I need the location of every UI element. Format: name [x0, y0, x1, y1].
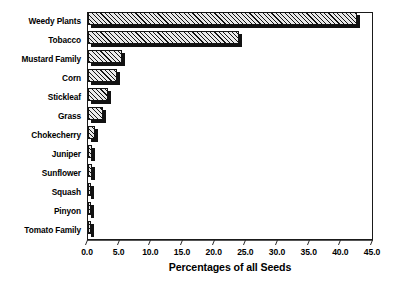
x-axis-tick — [275, 240, 278, 245]
x-axis-tick — [117, 240, 120, 245]
bar — [88, 31, 239, 44]
bar — [88, 164, 92, 177]
x-axis-tick — [85, 240, 88, 245]
x-axis-tick-label: 10.0 — [142, 247, 158, 257]
bar — [88, 145, 92, 158]
bar-row — [88, 183, 373, 202]
x-axis-tick — [180, 240, 183, 245]
category-label: Tobacco — [0, 31, 84, 50]
x-axis-title: Percentages of all Seeds — [87, 261, 373, 273]
category-label: Stickleaf — [0, 88, 84, 107]
bar — [88, 50, 122, 63]
x-axis-tick-label: 45.0 — [364, 247, 380, 257]
bar — [88, 88, 108, 101]
bar-shadow — [91, 186, 94, 199]
x-axis-tick-label: 0.0 — [81, 247, 93, 257]
category-label: Grass — [0, 107, 84, 126]
bar — [88, 221, 91, 234]
x-axis-tick-label: 25.0 — [237, 247, 253, 257]
bar — [88, 12, 357, 25]
bar-row — [88, 145, 373, 164]
bar — [88, 202, 91, 215]
bar-shadow — [91, 224, 94, 237]
bar-row — [88, 202, 373, 221]
x-axis-tick — [243, 240, 246, 245]
x-axis-tick-label: 40.0 — [332, 247, 348, 257]
category-label: Chokecherry — [0, 126, 84, 145]
category-label: Tomato Family — [0, 221, 84, 240]
category-label: Juniper — [0, 145, 84, 164]
x-axis: 0.05.010.015.020.025.030.035.040.045.0 — [87, 240, 373, 241]
bar-row — [88, 88, 373, 107]
x-axis-tick-label: 20.0 — [205, 247, 221, 257]
category-label: Corn — [0, 69, 84, 88]
category-label: Pinyon — [0, 202, 84, 221]
bar — [88, 69, 117, 82]
bar — [88, 107, 103, 120]
category-axis-labels: Weedy PlantsTobaccoMustard FamilyCornSti… — [0, 12, 84, 240]
bar-row — [88, 126, 373, 145]
bar-shadow — [91, 205, 94, 218]
bar-row — [88, 69, 373, 88]
x-axis-tick — [370, 240, 373, 245]
category-label: Mustard Family — [0, 50, 84, 69]
bar-row — [88, 12, 373, 31]
bar-row — [88, 107, 373, 126]
x-axis-tick — [148, 240, 151, 245]
bar — [88, 126, 95, 139]
category-label: Squash — [0, 183, 84, 202]
x-axis-tick — [212, 240, 215, 245]
category-label: Weedy Plants — [0, 12, 84, 31]
x-axis-tick-label: 30.0 — [269, 247, 285, 257]
x-axis-tick — [307, 240, 310, 245]
bars-layer — [88, 12, 373, 240]
x-axis-tick-label: 35.0 — [300, 247, 316, 257]
x-axis-tick-label: 15.0 — [174, 247, 190, 257]
bar-row — [88, 221, 373, 240]
category-label: Sunflower — [0, 164, 84, 183]
x-axis-tick — [338, 240, 341, 245]
bar — [88, 183, 91, 196]
seed-percentages-bar-chart: Weedy PlantsTobaccoMustard FamilyCornSti… — [0, 0, 394, 292]
bar-row — [88, 164, 373, 183]
x-axis-tick-label: 5.0 — [113, 247, 125, 257]
bar-row — [88, 50, 373, 69]
bar-row — [88, 31, 373, 50]
